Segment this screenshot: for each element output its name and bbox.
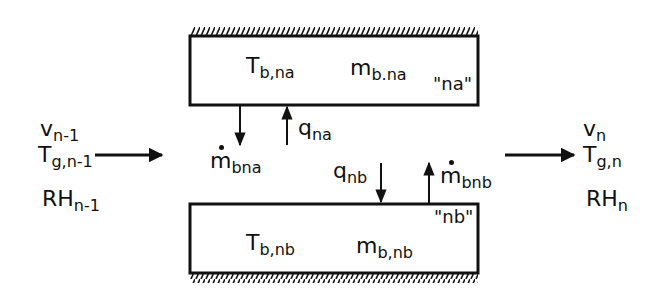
m-dot-bna-label: mbna <box>210 150 262 172</box>
bottom-temperature-label: Tb,nb <box>246 232 295 254</box>
bottom-mass-label: mb,nb <box>356 235 413 257</box>
q-nb-label: qnb <box>333 160 367 182</box>
m-dot-bnb-label: mbnb <box>440 165 492 187</box>
outlet-velocity-label: vn <box>583 118 606 140</box>
top-mass-label: mb.na <box>350 57 407 79</box>
inlet-gas-temperature-label: Tg,n-1 <box>38 144 93 166</box>
top-boundary-name-label: "na" <box>433 75 472 93</box>
inlet-velocity-label: vn-1 <box>40 118 79 140</box>
diagram-graphics <box>0 0 670 303</box>
q-na-label: qna <box>298 117 332 139</box>
heat-mass-transfer-diagram: Tb,na mb.na "na" Tb,nb mb,nb "nb" mbna q… <box>0 0 670 303</box>
bottom-boundary-name-label: "nb" <box>434 208 473 226</box>
outlet-gas-temperature-label: Tg,n <box>583 144 622 166</box>
inlet-humidity-label: RHn-1 <box>42 188 100 210</box>
outlet-humidity-label: RHn <box>586 188 628 210</box>
top-temperature-label: Tb,na <box>246 55 295 77</box>
top-box-outline <box>190 36 478 105</box>
bottom-wall-hatching <box>190 273 478 283</box>
